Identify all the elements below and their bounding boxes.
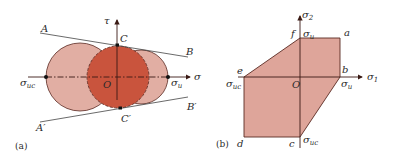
label-a: A [40, 23, 48, 34]
label-vertex-a: a [344, 27, 350, 38]
label-sigma-u: σu [171, 77, 183, 90]
label-a-prime: A′ [35, 122, 46, 133]
point-sigma-u [166, 75, 170, 79]
label-origin-a: O [103, 79, 111, 90]
label-c: C [120, 33, 128, 44]
label-vertex-d: d [237, 138, 243, 149]
label-bottom-intercept: σuc [303, 134, 318, 147]
label-sigma2: σ2 [302, 9, 314, 22]
panel-b-failure-envelope: σ2 σ1 a b c d e f O σu σu σuc σuc (b) [216, 9, 378, 149]
label-b: B [185, 46, 193, 57]
label-origin-b: O [292, 79, 300, 90]
point-c [116, 44, 120, 47]
label-c-prime: C′ [121, 113, 132, 124]
label-b-prime: B′ [186, 101, 197, 112]
label-sigma-uc: σuc [20, 77, 35, 90]
caption-b: (b) [216, 139, 229, 149]
label-vertex-e: e [237, 65, 243, 76]
label-right-intercept: σu [341, 78, 353, 91]
point-sigma-uc [44, 75, 48, 79]
label-vertex-f: f [290, 28, 297, 39]
point-c-prime [119, 107, 123, 110]
label-vertex-b: b [342, 64, 348, 75]
failure-criteria-diagram: A B A′ B′ C C′ O τ σ σuc σu (a) σ2 σ1 a … [0, 0, 396, 161]
label-sigma-axis: σ [194, 71, 202, 82]
label-tau-axis: τ [104, 15, 110, 26]
label-sigma1: σ1 [367, 71, 378, 84]
caption-a: (a) [15, 141, 27, 151]
panel-a-mohr-circles: A B A′ B′ C C′ O τ σ σuc σu (a) [15, 15, 202, 151]
label-left-intercept: σuc [226, 78, 241, 91]
label-vertex-c: c [289, 138, 295, 149]
